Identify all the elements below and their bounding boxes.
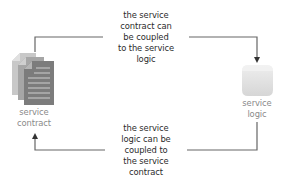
- caption-line: the service: [105, 156, 187, 167]
- label-line: service: [232, 98, 282, 109]
- label-line: contract: [9, 118, 59, 129]
- caption-line: to the service: [103, 43, 189, 54]
- caption-line: coupled to: [105, 145, 187, 156]
- edge-caption-logic-to-contract: the service logic can be coupled to the …: [105, 123, 187, 178]
- service-logic-node: [242, 65, 273, 96]
- caption-line: logic can be: [105, 134, 187, 145]
- rounded-square-icon: [242, 65, 273, 96]
- caption-line: contract can: [103, 21, 189, 32]
- document-stack-icon: [10, 53, 56, 107]
- edge-caption-contract-to-logic: the service contract can be coupled to t…: [103, 10, 189, 65]
- caption-line: the service: [105, 123, 187, 134]
- service-contract-node: [10, 53, 56, 107]
- label-line: service: [9, 107, 59, 118]
- service-contract-label: service contract: [9, 107, 59, 129]
- service-logic-label: service logic: [232, 98, 282, 120]
- label-line: logic: [232, 109, 282, 120]
- caption-line: be coupled: [103, 32, 189, 43]
- diagram-canvas: the service contract can be coupled to t…: [0, 0, 285, 188]
- caption-line: the service: [103, 10, 189, 21]
- caption-line: contract: [105, 167, 187, 178]
- caption-line: logic: [103, 54, 189, 65]
